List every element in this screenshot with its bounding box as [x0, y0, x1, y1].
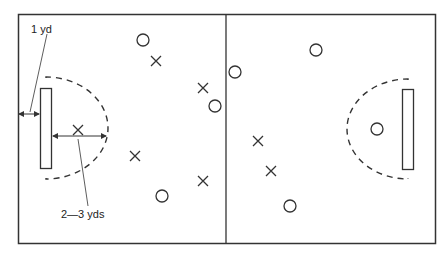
field-diagram: 1 yd 2—3 yds: [0, 0, 448, 255]
left-goal-circle: [46, 77, 108, 179]
player-x-icon: [253, 136, 263, 146]
player-o-icon: [209, 100, 221, 112]
player-x-icon: [130, 151, 140, 161]
player-x-icon: [151, 56, 161, 66]
player-x-icon: [198, 176, 208, 186]
right-goal: [403, 90, 414, 170]
player-o-icon: [156, 190, 168, 202]
player-x-icon: [198, 83, 208, 93]
circle-radius-leader: [78, 139, 88, 206]
right-goal-circle: [347, 79, 408, 179]
player-o-icon: [229, 66, 241, 78]
player-o-icon: [371, 123, 383, 135]
left-goal: [41, 89, 52, 169]
player-o-icon: [310, 44, 322, 56]
goal-distance-label: 1 yd: [31, 23, 52, 35]
circle-radius-label: 2—3 yds: [61, 208, 105, 220]
player-o-icon: [284, 200, 296, 212]
o-players: [137, 34, 383, 212]
player-x-icon: [73, 125, 83, 135]
x-players: [73, 56, 276, 186]
player-x-icon: [266, 166, 276, 176]
player-o-icon: [137, 34, 149, 46]
